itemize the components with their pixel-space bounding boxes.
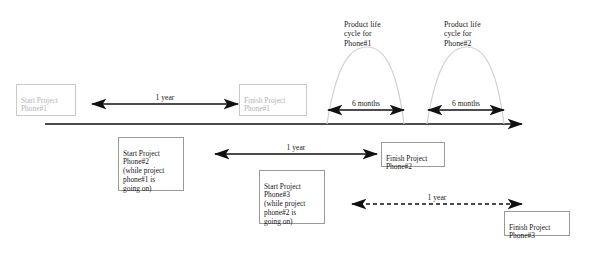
lifecycle-curve-phone-2	[427, 47, 504, 124]
label-lifecycle-2-span: 6 months	[436, 99, 496, 108]
label-lifecycle-phone-2-text: Product life cycle for Phone#2	[444, 20, 481, 48]
label-lifecycle-1-span-text: 6 months	[352, 99, 380, 108]
label-lifecycle-1-span: 6 months	[336, 99, 396, 108]
box-finish-phone-1-label: Finish Project Phone#1	[244, 96, 285, 114]
box-start-phone-2: Start Project Phone#2 (while project pho…	[118, 137, 184, 191]
box-finish-phone-3: Finish Project Phone#3	[504, 211, 570, 236]
label-phone-2-duration: 1 year	[266, 143, 326, 152]
box-start-phone-3: Start Project Phone#3 (while project pho…	[259, 170, 325, 224]
box-finish-phone-3-label: Finish Project Phone#3	[509, 223, 550, 241]
timeline-diagram: Start Project Phone#1 Finish Project Pho…	[0, 0, 595, 254]
box-finish-phone-2-label: Finish Project Phone#2	[386, 154, 427, 172]
box-start-phone-3-label: Start Project Phone#3 (while project pho…	[264, 182, 305, 226]
label-lifecycle-phone-1-text: Product life cycle for Phone#1	[344, 20, 381, 48]
box-start-phone-2-label: Start Project Phone#2 (while project pho…	[123, 149, 164, 193]
label-phone-3-duration: 1 year	[407, 193, 467, 202]
label-lifecycle-phone-1: Product life cycle for Phone#1	[344, 10, 381, 49]
label-phone-3-duration-text: 1 year	[428, 193, 447, 202]
label-phone-2-duration-text: 1 year	[287, 143, 306, 152]
lifecycle-curve-phone-1	[327, 47, 404, 124]
label-phone-1-duration: 1 year	[135, 93, 195, 102]
label-lifecycle-2-span-text: 6 months	[452, 99, 480, 108]
box-finish-phone-2: Finish Project Phone#2	[381, 142, 445, 167]
box-finish-phone-1: Finish Project Phone#1	[239, 84, 307, 116]
label-phone-1-duration-text: 1 year	[156, 93, 175, 102]
box-start-phone-1: Start Project Phone#1	[16, 84, 76, 116]
box-start-phone-1-label: Start Project Phone#1	[21, 96, 58, 114]
label-lifecycle-phone-2: Product life cycle for Phone#2	[444, 10, 481, 49]
